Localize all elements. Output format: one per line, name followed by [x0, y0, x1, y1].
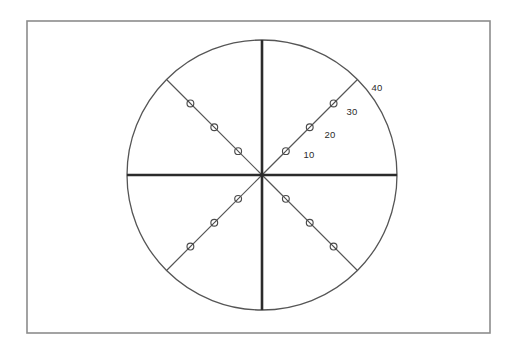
data-marker: [282, 195, 289, 202]
outer-frame: [27, 21, 490, 333]
data-marker: [187, 100, 194, 107]
data-marker: [330, 243, 337, 250]
data-marker: [211, 219, 218, 226]
radial-tick-label-20: 20: [325, 129, 336, 140]
radial-tick-label-40: 40: [372, 82, 383, 93]
radial-tick-label-30: 30: [347, 106, 358, 117]
data-marker: [211, 124, 218, 131]
polar-chart-svg: 10203040: [0, 0, 518, 348]
data-marker: [306, 219, 313, 226]
data-marker: [235, 148, 242, 155]
data-marker: [306, 124, 313, 131]
data-marker: [282, 148, 289, 155]
data-marker: [187, 243, 194, 250]
data-marker: [235, 195, 242, 202]
figure-root: 10203040: [0, 0, 518, 348]
data-marker: [330, 100, 337, 107]
radial-tick-label-10: 10: [304, 149, 315, 160]
